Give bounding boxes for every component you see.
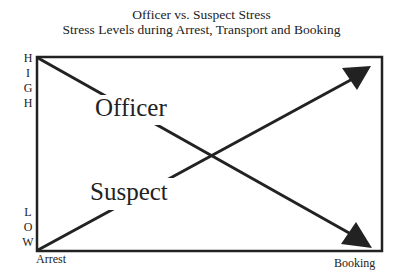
- y-high-letter: H: [22, 96, 34, 111]
- suspect-arrowhead-icon: [342, 66, 371, 90]
- suspect-line: [38, 76, 358, 250]
- officer-label: Officer: [95, 94, 167, 122]
- y-high-letter: G: [22, 81, 34, 96]
- y-low-letter: L: [22, 205, 34, 220]
- stress-diagram: [0, 0, 403, 279]
- officer-line: [38, 58, 358, 238]
- x-start-label: Arrest: [36, 252, 66, 267]
- y-high-letter: H: [22, 51, 34, 66]
- x-end-label: Booking: [334, 256, 375, 271]
- y-high-letter: I: [22, 66, 34, 81]
- y-low-letter: O: [22, 220, 34, 235]
- suspect-label: Suspect: [90, 178, 168, 206]
- y-low-letter: W: [22, 235, 34, 250]
- officer-arrowhead-icon: [341, 222, 372, 248]
